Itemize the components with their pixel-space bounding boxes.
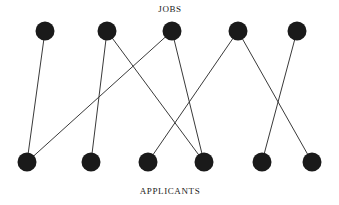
applicant-node-a5: [253, 153, 272, 172]
graph-edge: [238, 31, 312, 162]
graph-edge: [172, 31, 204, 162]
node-layer: [18, 22, 322, 172]
applicant-node-a6: [303, 153, 322, 172]
graph-edge: [27, 31, 172, 162]
graph-edge: [148, 31, 238, 162]
job-node-j4: [229, 22, 248, 41]
graph-edge: [107, 31, 204, 162]
graph-edge: [262, 31, 297, 162]
edge-layer: [27, 31, 312, 162]
applicant-node-a2: [82, 153, 101, 172]
jobs-label: JOBS: [158, 4, 181, 14]
job-node-j5: [288, 22, 307, 41]
graph-canvas: [0, 0, 339, 205]
job-node-j2: [98, 22, 117, 41]
applicant-node-a1: [18, 153, 37, 172]
job-node-j3: [163, 22, 182, 41]
graph-edge: [27, 31, 45, 162]
applicant-node-a4: [195, 153, 214, 172]
applicant-node-a3: [139, 153, 158, 172]
job-node-j1: [36, 22, 55, 41]
applicants-label: APPLICANTS: [140, 186, 201, 196]
bipartite-graph-diagram: JOBS APPLICANTS: [0, 0, 339, 205]
